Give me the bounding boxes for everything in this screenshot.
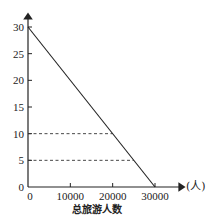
y-tick-label: 15 [13, 101, 25, 113]
y-tick-label: 20 [13, 74, 25, 86]
y-tick-label: 10 [13, 128, 25, 140]
y-tick-label: 30 [13, 21, 25, 33]
y-tick-label: 0 [19, 181, 25, 193]
x-tick-label: 10000 [57, 190, 85, 202]
y-tick-label: 25 [13, 48, 25, 60]
x-tick-label: 20000 [99, 190, 127, 202]
x-unit-label: (人) [186, 180, 206, 193]
plot-area: 0510152025300100002000030000(人)总旅游人数 [13, 16, 206, 215]
y-tick-label: 5 [19, 154, 25, 166]
x-tick-label: 30000 [141, 190, 169, 202]
chart: 0510152025300100002000030000(人)总旅游人数 [0, 0, 206, 222]
x-axis-title: 总旅游人数 [72, 203, 123, 215]
x-tick-label: 0 [27, 190, 33, 202]
data-line [28, 27, 155, 187]
